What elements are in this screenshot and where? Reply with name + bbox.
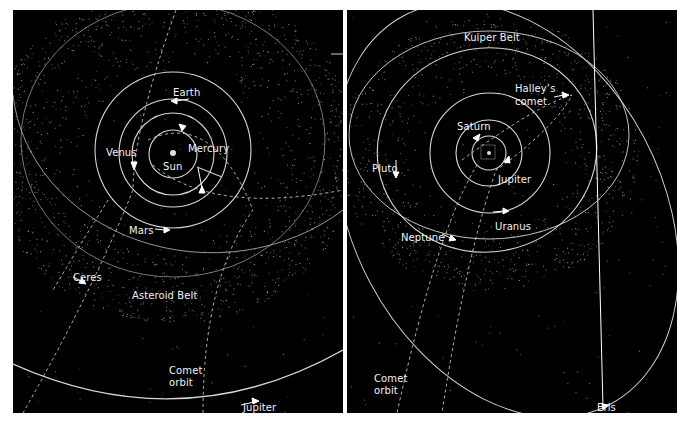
outer-solar-system-panel: Kuiper Belt Halley’s comet Saturn Pluto … <box>347 10 677 413</box>
label-comet-orbit-line2: orbit <box>374 385 398 396</box>
label-uranus: Uranus <box>495 221 531 232</box>
label-asteroid-belt: Asteroid Belt <box>132 290 197 301</box>
sun-dot <box>487 151 491 155</box>
outer-orbits-diagram <box>347 10 677 413</box>
label-mercury: Mercury <box>188 143 229 154</box>
mercury-pointer-line <box>197 167 222 177</box>
label-comet-orbit-line1: Comet <box>374 373 407 384</box>
label-neptune: Neptune <box>401 232 444 243</box>
asteroid-field <box>14 10 343 413</box>
comet-orbit-dashed <box>23 10 176 413</box>
neptune-orbit <box>361 30 613 269</box>
label-jupiter: Jupiter <box>243 402 276 413</box>
label-earth: Earth <box>173 87 200 98</box>
label-kuiper-belt: Kuiper Belt <box>464 32 520 43</box>
venus-arrow <box>131 162 137 170</box>
eris-orbit <box>347 10 677 413</box>
label-saturn: Saturn <box>457 121 491 132</box>
label-eris: Eris <box>597 402 616 413</box>
mercury-arrow <box>179 124 186 131</box>
label-halleys-line2: comet <box>515 96 547 107</box>
label-mars: Mars <box>129 225 153 236</box>
inner-solar-system-panel: Earth Venus Mercury Sun Mars Ceres Aster… <box>13 10 343 413</box>
label-comet-orbit-line2: orbit <box>169 377 193 388</box>
ceres-orbit <box>13 95 343 253</box>
label-jupiter: Jupiter <box>498 174 531 185</box>
comet-orbit-dashed-left <box>397 165 477 413</box>
inner-orbits-diagram <box>13 10 343 413</box>
label-pluto: Pluto <box>372 163 398 174</box>
pluto-orbit <box>349 31 629 239</box>
label-comet-orbit-line1: Comet <box>169 365 202 376</box>
sun-dot <box>170 150 176 156</box>
label-halleys-line1: Halley’s <box>515 83 555 94</box>
asteroid-belt-outer-ring <box>21 10 325 277</box>
label-ceres: Ceres <box>73 272 102 283</box>
label-sun: Sun <box>163 161 182 172</box>
label-venus: Venus <box>106 147 137 158</box>
comet-orbit-dashed-right <box>442 168 497 413</box>
